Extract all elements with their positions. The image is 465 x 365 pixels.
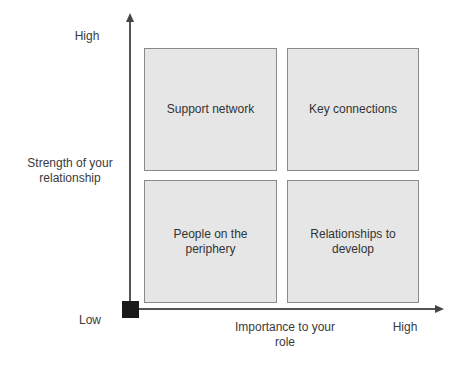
quadrant-people-on-periphery: People on the periphery <box>144 180 277 303</box>
origin-marker <box>122 301 139 318</box>
y-axis-line <box>129 20 131 306</box>
x-axis-high-label: High <box>380 320 430 335</box>
quadrant-support-network: Support network <box>144 48 277 171</box>
quadrant-label: Relationships to develop <box>298 227 408 257</box>
quadrant-label: People on the periphery <box>156 227 266 257</box>
x-axis-line <box>136 308 436 310</box>
quadrant-label: Support network <box>167 102 254 117</box>
x-axis-arrow-icon <box>434 304 444 314</box>
y-axis-high-label: High <box>62 29 112 44</box>
quadrant-relationships-to-develop: Relationships to develop <box>287 180 419 303</box>
y-axis-low-label: Low <box>70 313 110 328</box>
quadrant-label: Key connections <box>309 102 397 117</box>
y-axis-arrow-icon <box>125 13 135 23</box>
quadrant-key-connections: Key connections <box>287 48 419 171</box>
x-axis-title: Importance to your role <box>225 320 345 350</box>
y-axis-title: Strength of your relationship <box>20 156 120 186</box>
